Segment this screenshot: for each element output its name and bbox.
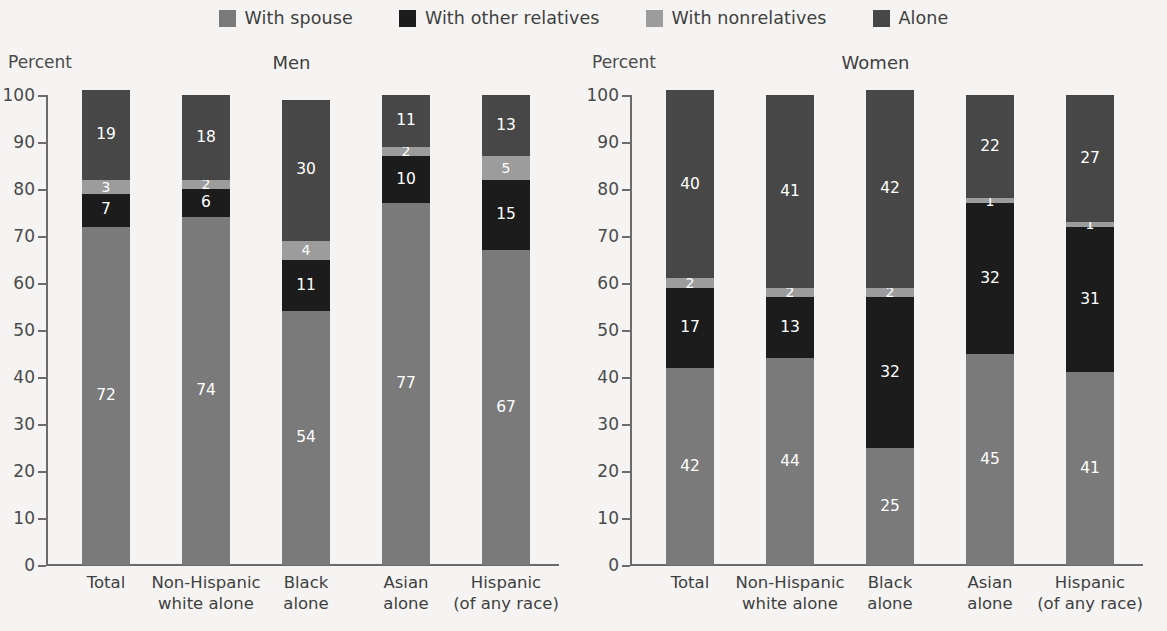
bar-group[interactable]: 4413241 [766,95,814,565]
bar-value-label: 13 [496,118,516,134]
bar-segment[interactable]: 27 [1066,95,1114,222]
y-tick-label: 90 [597,132,619,152]
legend-item-label: With nonrelatives [672,8,827,28]
bar-segment[interactable]: 11 [382,95,430,147]
bar-segment[interactable]: 18 [182,95,230,180]
bar-segment[interactable]: 13 [766,297,814,358]
bar-segment[interactable]: 11 [282,260,330,312]
bar-segment[interactable]: 42 [666,368,714,565]
bar-segment[interactable]: 22 [966,95,1014,198]
bar-segment[interactable]: 32 [966,203,1014,353]
bar-segment[interactable]: 3 [82,180,130,194]
bar-group[interactable]: 4217240 [666,95,714,565]
bar-segment[interactable]: 41 [1066,372,1114,565]
legend-item-spouse[interactable]: With spouse [219,8,353,28]
legend-item-alone[interactable]: Alone [873,8,949,28]
bar-group[interactable]: 727319 [82,95,130,565]
y-tick-label: 60 [597,273,619,293]
bar-group[interactable]: 5411430 [282,95,330,565]
bar-value-label: 13 [780,320,800,336]
bar-segment[interactable]: 42 [866,90,914,287]
y-tick-label: 0 [24,555,35,575]
y-tick-label: 70 [597,226,619,246]
bar-value-label: 41 [1080,461,1100,477]
bar-group[interactable]: 746218 [182,95,230,565]
bar-value-label: 54 [296,430,316,446]
bar-value-label: 25 [880,499,900,515]
legend-swatch-icon [399,10,416,27]
y-tick-mark [622,95,630,97]
bar-segment[interactable]: 10 [382,156,430,203]
bar-segment[interactable]: 1 [966,198,1014,203]
y-tick-label: 30 [597,414,619,434]
bar-segment[interactable]: 2 [666,278,714,287]
bar-segment[interactable]: 74 [182,217,230,565]
bar-segment[interactable]: 30 [282,100,330,241]
bar-segment[interactable]: 1 [1066,222,1114,227]
legend-item-nonrelatives[interactable]: With nonrelatives [646,8,827,28]
y-tick-label: 80 [13,179,35,199]
y-tick-mark [622,518,630,520]
y-tick-mark [622,142,630,144]
y-tick-label: 100 [3,85,35,105]
y-tick-label: 0 [608,555,619,575]
y-tick-mark [38,471,46,473]
y-tick-mark [622,565,630,567]
bars-men: 727319Total746218Non-Hispanic white alon… [46,95,551,565]
legend-item-label: Alone [899,8,949,28]
bar-group[interactable]: 4532122 [966,95,1014,565]
y-tick-label: 30 [13,414,35,434]
y-tick-mark [38,283,46,285]
bar-value-label: 10 [396,172,416,188]
bar-value-label: 7 [101,202,111,218]
y-tick-mark [38,565,46,567]
y-tick-label: 100 [587,85,619,105]
bar-segment[interactable]: 2 [182,180,230,189]
bar-group[interactable]: 6715513 [482,95,530,565]
bar-group[interactable]: 7710211 [382,95,430,565]
bar-segment[interactable]: 31 [1066,227,1114,373]
bar-segment[interactable]: 2 [766,288,814,297]
bar-segment[interactable]: 67 [482,250,530,565]
legend-item-label: With spouse [245,8,353,28]
y-tick-label: 40 [597,367,619,387]
bar-segment[interactable]: 45 [966,354,1014,566]
bar-segment[interactable]: 17 [666,288,714,368]
bar-segment[interactable]: 19 [82,90,130,179]
bar-segment[interactable]: 13 [482,95,530,156]
bar-value-label: 31 [1080,292,1100,308]
bar-value-label: 27 [1080,151,1100,167]
bar-segment[interactable]: 32 [866,297,914,447]
bar-segment[interactable]: 72 [82,227,130,565]
bar-value-label: 44 [780,454,800,470]
bar-value-label: 5 [502,161,511,175]
bar-segment[interactable]: 15 [482,180,530,251]
y-tick-mark [38,142,46,144]
bar-value-label: 72 [96,388,116,404]
y-tick-mark [38,518,46,520]
bar-value-label: 22 [980,139,1000,155]
y-tick-mark [622,330,630,332]
bar-value-label: 42 [880,181,900,197]
legend-item-other_relatives[interactable]: With other relatives [399,8,600,28]
bar-segment[interactable]: 5 [482,156,530,180]
bar-segment[interactable]: 77 [382,203,430,565]
bar-group[interactable]: 4131127 [1066,95,1114,565]
y-tick-label: 70 [13,226,35,246]
bar-segment[interactable]: 2 [866,288,914,297]
bar-segment[interactable]: 54 [282,311,330,565]
bar-segment[interactable]: 7 [82,194,130,227]
bar-segment[interactable]: 6 [182,189,230,217]
bar-segment[interactable]: 40 [666,90,714,278]
bar-group[interactable]: 2532242 [866,95,914,565]
bar-segment[interactable]: 44 [766,358,814,565]
bar-segment[interactable]: 41 [766,95,814,288]
bar-segment[interactable]: 4 [282,241,330,260]
bar-value-label: 74 [196,383,216,399]
panel-title-women: Women [584,52,1167,73]
bar-segment[interactable]: 25 [866,448,914,566]
y-tick-mark [38,424,46,426]
y-tick-mark [622,283,630,285]
bar-segment[interactable]: 2 [382,147,430,156]
plot-area-men: 0102030405060708090100 727319Total746218… [46,95,551,565]
